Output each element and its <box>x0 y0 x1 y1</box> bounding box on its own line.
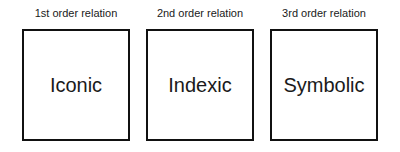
semiotic-orders-diagram: 1st order relation Iconic 2nd order rela… <box>0 0 400 152</box>
sign-term-iconic: Iconic <box>50 74 102 97</box>
sign-box-indexic: Indexic <box>146 29 254 141</box>
sign-term-symbolic: Symbolic <box>283 74 364 97</box>
panel-indexic: 2nd order relation Indexic <box>146 7 254 141</box>
order-label-3rd: 3rd order relation <box>282 7 366 20</box>
sign-term-indexic: Indexic <box>168 74 231 97</box>
order-label-2nd: 2nd order relation <box>157 7 243 20</box>
sign-box-symbolic: Symbolic <box>270 29 378 141</box>
panel-symbolic: 3rd order relation Symbolic <box>270 7 378 141</box>
order-label-1st: 1st order relation <box>35 7 118 20</box>
sign-box-iconic: Iconic <box>22 29 130 141</box>
panel-iconic: 1st order relation Iconic <box>22 7 130 141</box>
